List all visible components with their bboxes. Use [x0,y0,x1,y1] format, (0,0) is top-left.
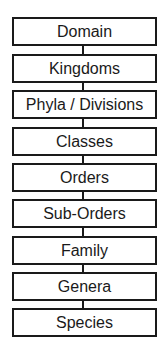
level-label: Classes [56,134,113,150]
connector-line [82,301,84,308]
level-label: Species [56,315,113,331]
level-box-species: Species [12,308,157,337]
level-box-orders: Orders [12,163,157,192]
level-box-phyla-divisions: Phyla / Divisions [12,90,157,119]
level-box-classes: Classes [12,127,157,156]
taxonomy-hierarchy-diagram: Domain Kingdoms Phyla / Divisions Classe… [0,0,168,354]
connector-line [82,119,84,127]
level-label: Sub-Orders [43,206,126,222]
connector-line [82,228,84,236]
level-box-domain: Domain [12,17,157,46]
connector-line [82,83,84,90]
level-label: Orders [60,170,109,186]
connector-line [82,265,84,272]
connector-line [82,156,84,163]
level-label: Phyla / Divisions [26,97,143,113]
level-box-family: Family [12,236,157,265]
level-label: Genera [58,279,111,295]
level-label: Family [61,243,108,259]
connector-line [82,46,84,54]
level-box-kingdoms: Kingdoms [12,54,157,83]
level-label: Domain [57,24,112,40]
level-label: Kingdoms [49,61,120,77]
level-box-sub-orders: Sub-Orders [12,199,157,228]
level-box-genera: Genera [12,272,157,301]
connector-line [82,192,84,199]
